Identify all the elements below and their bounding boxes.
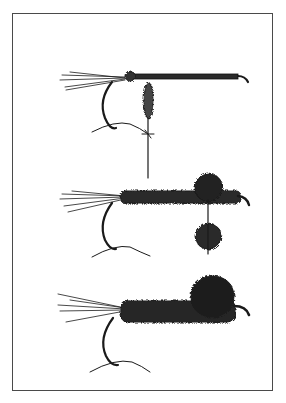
fly-stage-1: [60, 71, 248, 178]
fly-illustration: [0, 0, 286, 403]
tail-fibers-icon: [60, 72, 125, 90]
fly-stage-3: [58, 275, 249, 372]
hook-eye: [238, 76, 248, 82]
fly-stage-2: [60, 173, 249, 257]
dubbing-loop: [143, 82, 153, 118]
dubbing-knot: [125, 71, 135, 81]
hook-shank: [128, 74, 238, 79]
